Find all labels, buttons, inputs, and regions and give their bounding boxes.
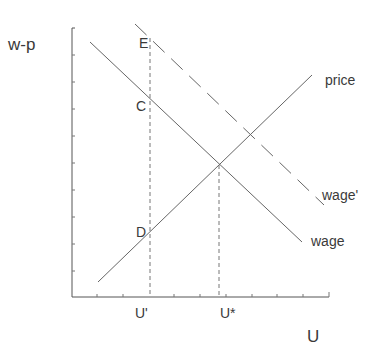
wage-prime-curve xyxy=(135,24,324,205)
point-e-label: E xyxy=(139,35,148,51)
u-prime-label: U' xyxy=(135,305,148,321)
axes xyxy=(72,28,329,297)
wage-prime-label: wage' xyxy=(321,187,358,203)
y-axis-label: w-p xyxy=(7,35,35,54)
point-d-label: D xyxy=(136,224,146,240)
x-axis-ticks xyxy=(97,292,329,297)
u-star-label: U* xyxy=(220,305,236,321)
price-label: price xyxy=(325,72,356,88)
wage-curve xyxy=(90,42,302,242)
wage-label: wage xyxy=(310,233,345,249)
x-axis-label: U xyxy=(307,327,319,346)
wage-price-diagram: w-p U price wage' wage E C D U' U* xyxy=(0,0,370,358)
price-curve xyxy=(98,75,312,282)
point-c-label: C xyxy=(136,98,146,114)
